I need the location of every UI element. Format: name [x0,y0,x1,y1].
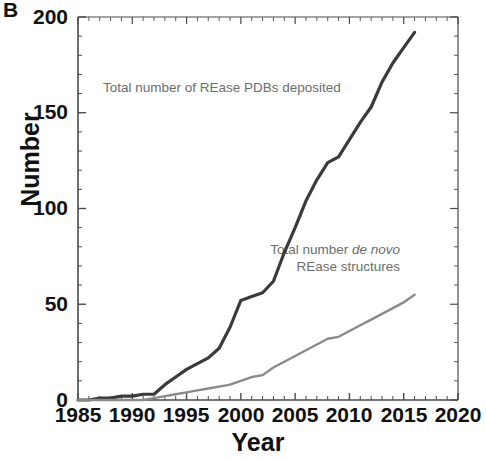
series-group [78,32,415,400]
series-line-2 [78,295,415,400]
series-line-1 [78,32,415,400]
axis-group [78,17,458,400]
